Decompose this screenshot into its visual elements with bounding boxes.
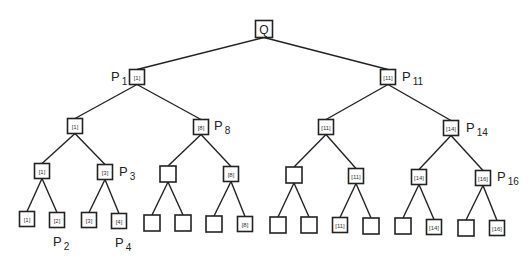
tree-edge bbox=[326, 135, 356, 169]
tree-node: [1] bbox=[20, 212, 35, 227]
tree-node: [14] bbox=[412, 170, 427, 185]
tree-node: [3] bbox=[98, 165, 113, 180]
tree-edge bbox=[419, 185, 434, 220]
node-box bbox=[301, 217, 317, 233]
tree-edge bbox=[340, 184, 356, 218]
tree-edge bbox=[278, 183, 294, 217]
tree-node: [1] bbox=[68, 119, 83, 134]
tree-node: [2] bbox=[50, 213, 65, 228]
tree-edge bbox=[326, 85, 388, 120]
tree-edge bbox=[231, 182, 245, 217]
processor-label: P2 bbox=[53, 234, 70, 252]
tree-edge bbox=[419, 136, 451, 170]
tree-node: [4] bbox=[112, 214, 127, 229]
tree-edge bbox=[451, 136, 483, 171]
tree-node bbox=[206, 216, 222, 232]
tree-edge bbox=[483, 186, 497, 221]
tree-node bbox=[395, 218, 411, 234]
tree-node: [8] bbox=[238, 217, 253, 232]
tree-node: [11] bbox=[333, 218, 348, 233]
tree-node: [14] bbox=[444, 121, 459, 136]
tree-edge bbox=[105, 180, 119, 214]
tree-edge bbox=[264, 38, 388, 70]
tree-edge bbox=[201, 135, 231, 167]
node-label: [1] bbox=[72, 124, 79, 130]
node-box bbox=[270, 217, 286, 233]
node-label: [1] bbox=[134, 75, 141, 81]
tree-edge bbox=[356, 184, 371, 219]
tree-node: [14] bbox=[427, 220, 442, 235]
node-box bbox=[144, 215, 160, 231]
node-label: [8] bbox=[228, 172, 235, 178]
tree-node bbox=[458, 220, 474, 236]
tree-edge bbox=[294, 183, 309, 217]
tree-node: [3] bbox=[82, 213, 97, 228]
node-label: [11] bbox=[351, 174, 361, 180]
tree-node bbox=[160, 166, 176, 182]
tree-nodes: Q[1][11][1][8][11][14][1][3][8][11][14][… bbox=[20, 21, 505, 237]
node-label: [11] bbox=[383, 75, 393, 81]
tree-node bbox=[301, 217, 317, 233]
tree-edge bbox=[27, 179, 42, 212]
tree-edge bbox=[168, 135, 201, 167]
processor-label: P11 bbox=[402, 69, 423, 87]
tree-edge bbox=[75, 134, 105, 165]
node-label: [4] bbox=[116, 219, 123, 225]
tree-edge bbox=[168, 182, 183, 215]
tree-edge bbox=[388, 85, 451, 121]
node-box bbox=[395, 218, 411, 234]
node-label: [1] bbox=[24, 217, 31, 223]
tree-node: [1] bbox=[130, 70, 145, 85]
node-box bbox=[363, 218, 379, 234]
node-box bbox=[286, 167, 302, 183]
tree-diagram: Q[1][11][1][8][11][14][1][3][8][11][14][… bbox=[0, 0, 530, 266]
tree-edges bbox=[27, 38, 497, 221]
tree-node bbox=[270, 217, 286, 233]
tree-node: [1] bbox=[35, 164, 50, 179]
node-label: [8] bbox=[198, 125, 205, 131]
node-label: [8] bbox=[242, 222, 249, 228]
node-label: [16] bbox=[492, 226, 502, 232]
node-label: [14] bbox=[429, 225, 439, 231]
processor-label: P1 bbox=[111, 69, 128, 87]
node-label: [14] bbox=[446, 126, 456, 132]
root-node: Q bbox=[256, 21, 273, 38]
processor-label: P16 bbox=[497, 169, 519, 187]
tree-node bbox=[363, 218, 379, 234]
tree-node: [8] bbox=[194, 120, 209, 135]
tree-edge bbox=[466, 186, 483, 221]
tree-edge bbox=[294, 135, 326, 168]
tree-node bbox=[175, 215, 191, 231]
processor-label: P4 bbox=[115, 235, 132, 253]
tree-edge bbox=[214, 182, 231, 217]
tree-edge bbox=[89, 180, 105, 213]
node-label: Q bbox=[259, 23, 268, 37]
node-label: [11] bbox=[335, 223, 345, 229]
tree-edge bbox=[42, 134, 75, 164]
node-box bbox=[175, 215, 191, 231]
node-label: [14] bbox=[414, 175, 424, 181]
node-label: [3] bbox=[86, 218, 93, 224]
tree-node: [8] bbox=[224, 167, 239, 182]
tree-edge bbox=[137, 85, 201, 120]
node-box bbox=[160, 166, 176, 182]
node-label: [11] bbox=[321, 125, 331, 131]
tree-node: [11] bbox=[319, 120, 334, 135]
node-label: [3] bbox=[102, 170, 109, 176]
node-label: [1] bbox=[39, 169, 46, 175]
processor-label: P14 bbox=[466, 120, 488, 138]
processor-label: P3 bbox=[119, 164, 136, 182]
tree-node: [11] bbox=[381, 70, 396, 85]
tree-edge bbox=[152, 182, 168, 215]
node-label: [2] bbox=[54, 218, 61, 224]
tree-edge bbox=[42, 179, 57, 213]
tree-node: [16] bbox=[490, 221, 505, 236]
node-box bbox=[458, 220, 474, 236]
processor-label: P8 bbox=[214, 118, 231, 136]
tree-edge bbox=[137, 38, 264, 70]
tree-edge bbox=[75, 85, 137, 119]
tree-node bbox=[286, 167, 302, 183]
node-box bbox=[206, 216, 222, 232]
tree-node: [16] bbox=[476, 171, 491, 186]
tree-node: [11] bbox=[349, 169, 364, 184]
